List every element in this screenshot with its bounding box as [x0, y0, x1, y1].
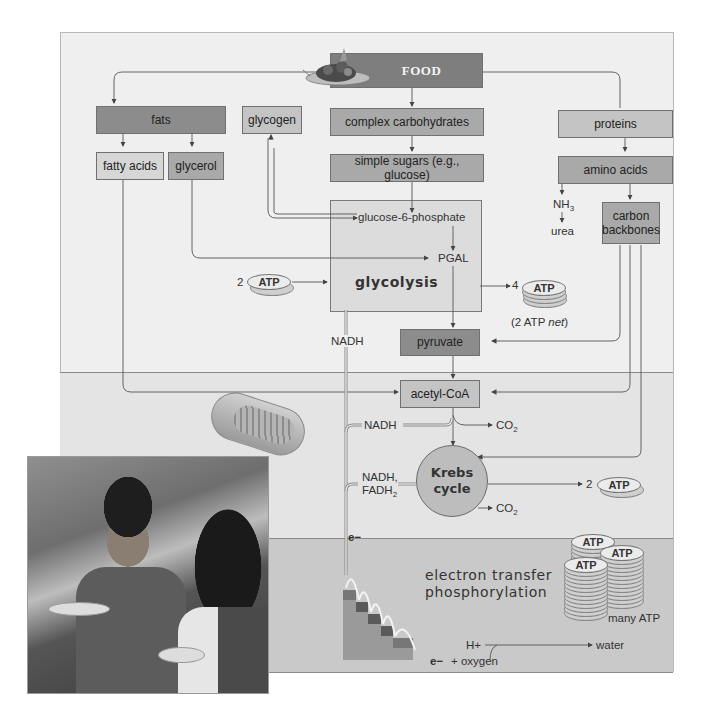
- fats-box: fats: [96, 106, 226, 134]
- nadh-acetyl-label: NADH: [364, 419, 397, 431]
- many-atp-label: many ATP: [608, 612, 660, 624]
- krebs-cycle-circle: Krebs cycle: [416, 445, 488, 517]
- carbon-backbones-box: carbon backbones: [602, 202, 660, 244]
- krebs-label: Krebs: [431, 465, 473, 481]
- etp-label-line1: electron transfer: [425, 567, 552, 583]
- nadh-glycolysis-label: NADH: [331, 335, 364, 347]
- proteins-box: proteins: [558, 110, 673, 138]
- atp-net-label: (2 ATP net): [511, 316, 568, 328]
- glycerol-label: glycerol: [175, 159, 216, 173]
- atp-in-count: 2: [237, 276, 243, 288]
- complex-carbohydrates-label: complex carbohydrates: [345, 115, 469, 129]
- nh3-label: NH3: [553, 198, 574, 213]
- simple-sugars-box: simple sugars (e.g., glucose): [330, 154, 484, 182]
- etp-label-line2: phosphorylation: [425, 584, 547, 600]
- complex-carbohydrates-box: complex carbohydrates: [330, 108, 484, 136]
- pyruvate-box: pyruvate: [400, 329, 480, 356]
- people-eating-photo: [27, 456, 269, 694]
- simple-sugars-label: simple sugars (e.g., glucose): [331, 154, 483, 183]
- co2-krebs-label: CO2: [496, 502, 518, 517]
- pyruvate-label: pyruvate: [417, 335, 463, 349]
- cycle-label: cycle: [433, 481, 470, 497]
- plus-oxygen-label: + oxygen: [451, 655, 498, 667]
- food-plate-icon: [300, 40, 380, 90]
- amino-acids-box: amino acids: [558, 156, 673, 184]
- glycogen-box: glycogen: [242, 106, 302, 134]
- krebs-atp-count: 2: [586, 478, 592, 490]
- water-label: water: [596, 639, 624, 651]
- fats-label: fats: [151, 113, 170, 127]
- acetyl-coa-box: acetyl-CoA: [400, 380, 480, 408]
- food-label: FOOD: [402, 63, 442, 79]
- co2-acetyl-label: CO2: [496, 419, 518, 434]
- proteins-label: proteins: [594, 117, 637, 131]
- nadh-fadh2-label: NADH,FADH2: [362, 471, 398, 500]
- urea-label: urea: [551, 225, 574, 237]
- acetyl-coa-label: acetyl-CoA: [411, 387, 470, 401]
- fatty-acids-box: fatty acids: [96, 152, 164, 180]
- atp-out-count: 4: [512, 279, 518, 291]
- electron-oxygen-label: e−: [430, 655, 443, 667]
- glucose-6-phosphate-label: glucose-6-phosphate: [358, 211, 465, 223]
- glycogen-label: glycogen: [248, 113, 296, 127]
- carbon-backbones-label: carbon backbones: [602, 209, 660, 238]
- glycerol-box: glycerol: [168, 152, 224, 180]
- fatty-acids-label: fatty acids: [103, 159, 157, 173]
- amino-acids-label: amino acids: [583, 163, 647, 177]
- hplus-label: H+: [466, 639, 481, 651]
- electron-label: e−: [348, 531, 361, 543]
- pgal-label: PGAL: [438, 252, 469, 264]
- glycolysis-label: glycolysis: [355, 274, 438, 290]
